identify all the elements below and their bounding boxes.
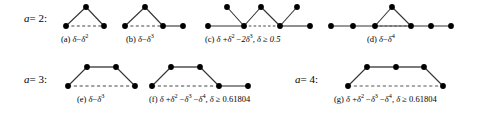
graph-node — [224, 4, 230, 10]
graph-node — [197, 64, 203, 70]
graph-node — [122, 23, 128, 29]
graph-node — [421, 64, 427, 70]
edge-solid — [66, 7, 86, 26]
edge-solid — [227, 7, 244, 26]
graph-b — [121, 2, 186, 32]
caption-g-tag: (g) — [334, 94, 344, 104]
graph-node — [258, 4, 264, 10]
graph-node — [372, 23, 378, 29]
graph-figure: a= 2: (a) δ−δ2 (b) δ−δ3 — [0, 0, 496, 116]
row-label-a2-eq: = 2: — [30, 12, 48, 24]
edge-solid — [116, 67, 135, 86]
caption-f-tag: (f) — [149, 94, 158, 104]
graph-node — [389, 4, 395, 10]
graph-node — [350, 23, 356, 29]
caption-c-t3: 2δ — [241, 34, 249, 44]
graph-node — [241, 23, 247, 29]
edge-solid — [68, 67, 87, 86]
caption-f: (f) δ +δ2 −δ3 −δ4, δ ≥ 0.61804 — [149, 94, 269, 104]
caption-b-exp: 3 — [151, 32, 154, 39]
caption-g: (g) δ +δ2 −δ3 −δ4, δ ≥ 0.61804 — [334, 94, 464, 104]
graph-c — [204, 2, 314, 32]
caption-b: (b) δ−δ3 — [126, 34, 154, 44]
edge-solid — [261, 7, 280, 26]
graph-node — [65, 83, 71, 89]
caption-f-e3: 3 — [188, 92, 191, 99]
graph-node — [113, 64, 119, 70]
caption-a: (a) δ−δ2 — [61, 34, 88, 44]
row-label-a4-eq: = 4: — [301, 73, 319, 85]
caption-a-exp: 2 — [85, 32, 88, 39]
caption-e-exp: 3 — [101, 92, 104, 99]
caption-g-t1: δ — [346, 94, 350, 104]
row-label-a3: a= 3: — [24, 73, 47, 85]
edge-solid — [200, 67, 219, 86]
graph-node — [364, 64, 370, 70]
graph-node — [180, 23, 186, 29]
row-label-a4: a= 4: — [295, 73, 318, 85]
edge-solid — [348, 67, 367, 86]
caption-a-tag: (a) — [61, 34, 70, 44]
edge-solid — [280, 7, 297, 26]
graph-node — [142, 4, 148, 10]
graph-node — [132, 83, 138, 89]
caption-c-tag: (c) — [205, 34, 214, 44]
graph-node — [168, 64, 174, 70]
edge-solid — [392, 7, 411, 26]
graph-e — [64, 62, 140, 92]
caption-c-e2: 2 — [231, 32, 234, 39]
row-label-a2: a= 2: — [24, 12, 47, 24]
graph-node — [101, 23, 107, 29]
graph-node — [216, 83, 222, 89]
graph-a — [62, 2, 108, 32]
graph-node — [160, 23, 166, 29]
graph-node — [428, 23, 434, 29]
caption-g-cond2: 0.61804 — [409, 94, 437, 104]
caption-g-e2: 2 — [361, 92, 364, 99]
graph-node — [149, 83, 155, 89]
edge-solid — [86, 7, 104, 26]
graph-node — [408, 23, 414, 29]
caption-g-cond: , δ ≥ — [392, 94, 407, 104]
edge-solid — [152, 67, 171, 86]
caption-d: (d) δ−δ4 — [367, 34, 395, 44]
graph-node — [277, 23, 283, 29]
graph-node — [205, 23, 211, 29]
graph-node — [294, 4, 300, 10]
caption-c-cond: , δ ≥ 0.5 — [253, 34, 281, 44]
graph-node — [448, 23, 454, 29]
graph-f — [148, 62, 258, 92]
edge-solid — [244, 7, 261, 26]
graph-node — [84, 64, 90, 70]
edge-solid — [375, 7, 392, 26]
graph-node — [307, 23, 313, 29]
caption-e-tag: (e) — [77, 94, 86, 104]
caption-f-cond2: 0.61804 — [223, 94, 251, 104]
edge-solid — [125, 7, 145, 26]
graph-node — [245, 83, 251, 89]
graph-node — [393, 64, 399, 70]
graph-node — [83, 4, 89, 10]
edge-solid — [145, 7, 163, 26]
caption-d-tag: (d) — [367, 34, 377, 44]
caption-c-t1: δ — [217, 34, 221, 44]
graph-node — [440, 83, 446, 89]
caption-f-e2: 2 — [174, 92, 177, 99]
caption-d-exp: 4 — [392, 32, 395, 39]
graph-d — [327, 2, 455, 32]
row-label-a3-eq: = 3: — [30, 73, 48, 85]
caption-f-cond: , δ ≥ — [205, 94, 220, 104]
graph-node — [345, 83, 351, 89]
edge-solid — [424, 67, 443, 86]
caption-b-tag: (b) — [126, 34, 136, 44]
caption-g-e3: 3 — [375, 92, 378, 99]
graph-g — [344, 62, 448, 92]
graph-node — [328, 23, 334, 29]
caption-f-t1: δ — [160, 94, 164, 104]
caption-e: (e) δ−δ3 — [77, 94, 104, 104]
graph-node — [63, 23, 69, 29]
caption-c: (c) δ +δ2 −2δ3, δ ≥ 0.5 — [205, 34, 280, 44]
